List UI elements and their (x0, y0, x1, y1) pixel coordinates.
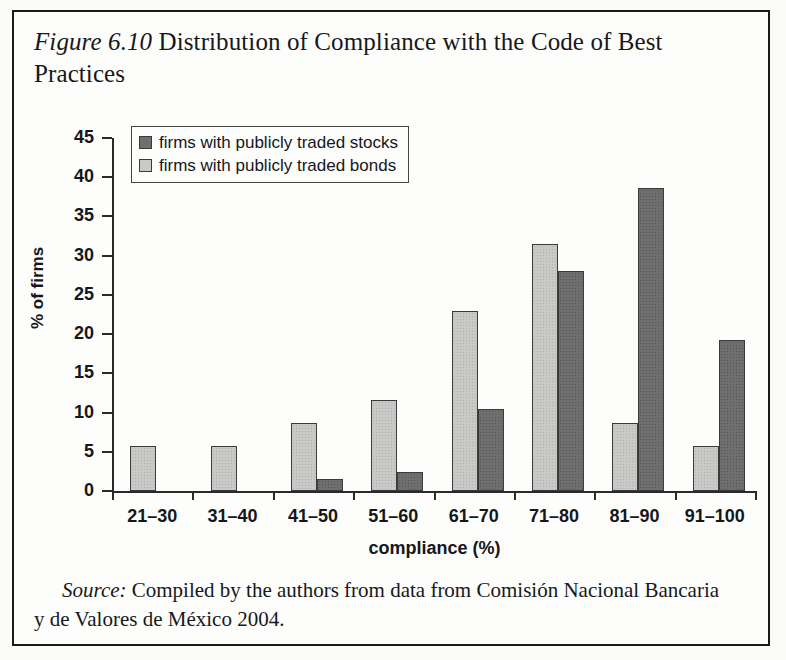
x-axis-tick (192, 491, 194, 500)
x-axis-tick-label: 41–50 (267, 506, 359, 527)
bar-stocks (638, 188, 664, 491)
bar-bonds (452, 311, 478, 491)
bar-group (194, 138, 274, 491)
y-axis-tick (102, 333, 112, 335)
x-axis-tick (594, 491, 596, 500)
x-axis-tick (434, 491, 436, 500)
legend-swatch-stocks-icon (139, 136, 152, 149)
legend-label-bonds: firms with publicly traded bonds (159, 156, 396, 176)
y-axis-tick-label: 10 (58, 403, 94, 421)
bar-stocks (558, 271, 584, 491)
bar-stocks (719, 340, 745, 491)
y-axis-tick (102, 255, 112, 257)
bar-bonds (130, 446, 156, 491)
source-label: Source: (62, 578, 127, 602)
y-axis-tick-label: 40 (58, 167, 94, 185)
bar-stocks (317, 479, 343, 491)
chart-legend: firms with publicly traded stocks firms … (131, 126, 409, 183)
y-axis-tick-label: 5 (58, 442, 94, 460)
x-axis-tick-label: 91–100 (669, 506, 761, 527)
bar-bonds (211, 446, 237, 491)
figure-title: Figure 6.10 Distribution of Compliance w… (34, 26, 724, 90)
bar-group (436, 138, 516, 491)
y-axis-tick-label: 15 (58, 363, 94, 381)
y-axis-tick-label: 30 (58, 246, 94, 264)
y-axis-tick (102, 490, 112, 492)
x-axis-tick-label: 31–40 (187, 506, 279, 527)
x-axis-tick-label: 51–60 (347, 506, 439, 527)
bar-stocks (397, 472, 423, 491)
x-axis-tick (112, 491, 114, 500)
bar-plot-area (114, 138, 757, 491)
y-axis-tick-label: 45 (58, 128, 94, 146)
bar-group (355, 138, 435, 491)
y-axis-title: % of firms (28, 228, 48, 348)
y-axis-tick (102, 176, 112, 178)
x-axis-tick (273, 491, 275, 500)
x-axis-tick (353, 491, 355, 500)
bar-bonds (532, 244, 558, 491)
figure-page: Figure 6.10 Distribution of Compliance w… (0, 0, 786, 660)
legend-swatch-bonds-icon (139, 159, 152, 172)
x-axis-tick-label: 61–70 (428, 506, 520, 527)
y-axis-tick (102, 451, 112, 453)
bar-bonds (291, 423, 317, 491)
bar-group (114, 138, 194, 491)
x-axis-tick (675, 491, 677, 500)
legend-label-stocks: firms with publicly traded stocks (159, 133, 398, 153)
y-axis-tick-label: 0 (58, 481, 94, 499)
bar-bonds (693, 446, 719, 491)
bar-bonds (612, 423, 638, 491)
legend-entry-bonds: firms with publicly traded bonds (139, 154, 398, 177)
source-text: Compiled by the authors from data from C… (34, 578, 719, 631)
bar-group (596, 138, 676, 491)
bar-bonds (371, 400, 397, 491)
bar-stocks (478, 409, 504, 491)
y-axis-tick-label: 20 (58, 324, 94, 342)
x-axis-tick (514, 491, 516, 500)
bar-group (516, 138, 596, 491)
y-axis-tick (102, 412, 112, 414)
y-axis-tick (102, 294, 112, 296)
bar-group (275, 138, 355, 491)
figure-source: Source: Compiled by the authors from dat… (34, 576, 734, 634)
x-axis-tick-label: 21–30 (106, 506, 198, 527)
x-axis-tick-label: 71–80 (508, 506, 600, 527)
x-axis-title: compliance (%) (112, 538, 757, 559)
bar-group (677, 138, 757, 491)
chart-container: % of firms compliance (%) firms with pub… (14, 118, 770, 558)
x-axis-tick (755, 491, 757, 500)
x-axis-tick-label: 81–90 (588, 506, 680, 527)
y-axis-tick-label: 25 (58, 285, 94, 303)
y-axis-tick (102, 215, 112, 217)
legend-entry-stocks: firms with publicly traded stocks (139, 131, 398, 154)
y-axis-tick (102, 372, 112, 374)
y-axis-tick (102, 137, 112, 139)
figure-number: Figure 6.10 (34, 28, 152, 55)
y-axis-tick-label: 35 (58, 206, 94, 224)
